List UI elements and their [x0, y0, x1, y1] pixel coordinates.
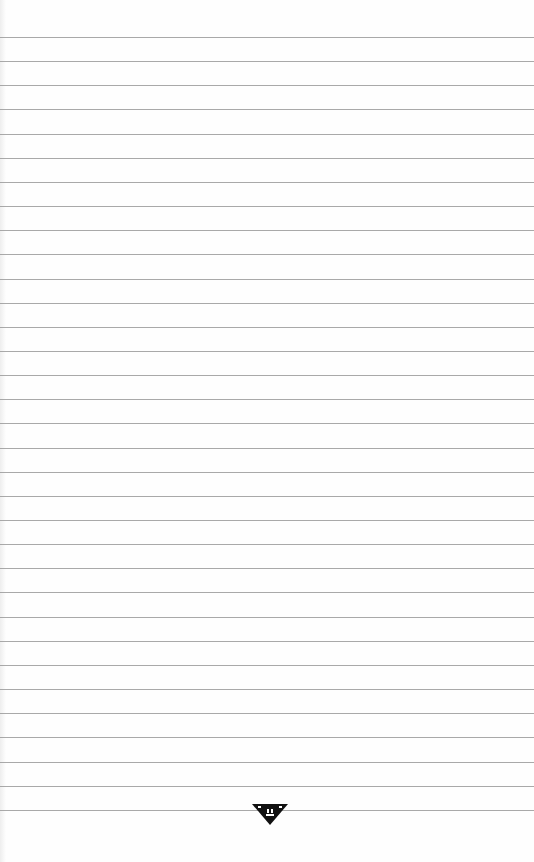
ruled-line	[0, 303, 534, 304]
ruled-line	[0, 182, 534, 183]
ruled-line	[0, 592, 534, 593]
ruled-line	[0, 109, 534, 110]
ruled-line	[0, 713, 534, 714]
ruled-line	[0, 617, 534, 618]
ruled-line	[0, 351, 534, 352]
ruled-line	[0, 399, 534, 400]
ruled-line	[0, 85, 534, 86]
ruled-line	[0, 423, 534, 424]
ruled-line	[0, 134, 534, 135]
ruled-line	[0, 689, 534, 690]
ruled-line	[0, 496, 534, 497]
ruled-line	[0, 472, 534, 473]
ruled-line	[0, 254, 534, 255]
ruled-line	[0, 737, 534, 738]
ruled-line	[0, 61, 534, 62]
ruled-line	[0, 279, 534, 280]
ruled-line	[0, 158, 534, 159]
ruled-line	[0, 762, 534, 763]
ruled-line	[0, 641, 534, 642]
paper-edge-shadow	[0, 0, 6, 862]
ruled-line	[0, 665, 534, 666]
ruled-line	[0, 327, 534, 328]
inverted-triangle-emblem-icon	[252, 803, 288, 825]
ruled-line	[0, 448, 534, 449]
ruled-line	[0, 786, 534, 787]
ruled-line	[0, 520, 534, 521]
ruled-line	[0, 375, 534, 376]
lined-paper	[0, 0, 534, 862]
ruled-line	[0, 544, 534, 545]
ruled-line	[0, 568, 534, 569]
ruled-line	[0, 230, 534, 231]
ruled-line	[0, 37, 534, 38]
ruled-line	[0, 206, 534, 207]
